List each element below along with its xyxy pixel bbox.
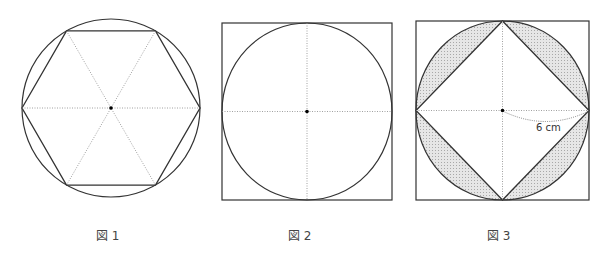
center-dot — [305, 110, 309, 114]
figure-2-caption: 図 2 — [288, 226, 311, 243]
figure-2 — [222, 23, 392, 200]
radius-label: 6 cm — [536, 122, 561, 133]
figure-1 — [22, 19, 200, 197]
figure-3 — [416, 21, 589, 200]
figure-1-caption: 図 1 — [96, 226, 119, 243]
center-dot — [501, 109, 505, 113]
figures-canvas — [0, 0, 600, 260]
center-dot — [109, 106, 113, 110]
figure-3-caption: 図 3 — [487, 226, 510, 243]
